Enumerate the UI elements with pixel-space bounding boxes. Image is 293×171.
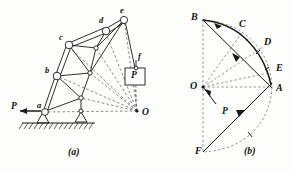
panel-b-tick-marks [248, 50, 269, 137]
panel-b-pole-label-O: O [190, 81, 197, 91]
panel-b-caption: (b) [244, 146, 256, 156]
vertex-label-C: C [239, 19, 246, 29]
panel-b-force-label-P: P [222, 107, 228, 117]
vertex-label-F: F [195, 146, 202, 156]
panel-b-ray-vectors [203, 20, 272, 152]
vertex-label-A: A [276, 83, 283, 93]
vertex-label-E: E [276, 63, 283, 73]
panel-b-dashed-arcs [203, 20, 272, 152]
figure-canvas: a b c d e f P P O (a) [0, 0, 293, 171]
panel-b-pole-node [201, 85, 204, 88]
vertex-label-B: B [191, 12, 198, 22]
vertex-label-D: D [264, 37, 271, 47]
